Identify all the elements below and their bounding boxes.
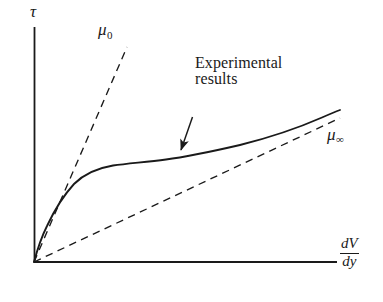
mu-zero-label: μ0 (98, 21, 113, 41)
annotation-line-1: Experimental (195, 55, 282, 71)
x-axis-label-fraction: dV dy (340, 236, 359, 270)
diagram-canvas (0, 0, 383, 302)
viscosity-shear-diagram: τ μ0 μ∞ Experimental results dV dy (0, 0, 383, 302)
mu-zero-asymptote-line (34, 47, 127, 262)
annotation-line-2: results (195, 71, 282, 87)
fraction-numerator: dV (340, 236, 359, 252)
mu-infinity-asymptote-line (34, 118, 340, 262)
dv-dy-fraction: dV dy (340, 236, 359, 270)
mu-infinity-subscript: ∞ (336, 133, 344, 145)
fraction-denominator: dy (340, 254, 359, 270)
mu-infinity-label: μ∞ (327, 126, 344, 146)
mu-zero-symbol: μ (98, 20, 107, 39)
y-axis-label-tau: τ (30, 3, 36, 20)
experimental-results-annotation: Experimental results (195, 55, 282, 88)
mu-infinity-symbol: μ (327, 125, 336, 144)
mu-zero-subscript: 0 (107, 29, 113, 41)
annotation-arrow (181, 117, 193, 150)
